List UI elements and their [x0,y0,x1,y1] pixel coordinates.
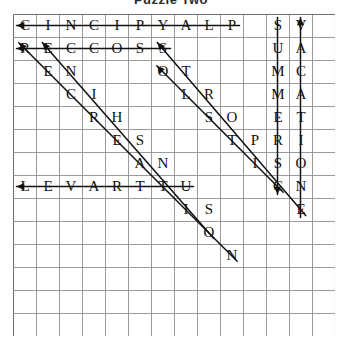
grid-lines [13,14,335,336]
page-title: Puzzle Two [0,0,342,6]
word-search-grid[interactable]: CINCIPYALPSVRECCOSSUAENOTMCCILRMARHSOETE… [13,14,335,336]
